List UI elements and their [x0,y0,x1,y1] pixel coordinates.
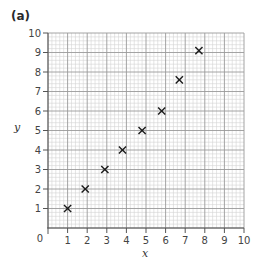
x-tick-label: 10 [238,235,251,246]
y-tick-label: 5 [35,125,41,136]
y-tick-label: 7 [35,86,41,97]
x-tick-label: 4 [123,235,129,246]
x-tick-label: 8 [202,235,208,246]
y-axis-label: y [13,121,21,134]
y-tick-label: 2 [35,184,41,195]
x-tick-label: 5 [143,235,149,246]
x-tick-label: 2 [84,235,90,246]
y-tick-label: 4 [35,145,41,156]
y-tick-label: 3 [35,164,41,175]
y-tick-label: 1 [35,203,41,214]
scatter-chart: 12345678910012345678910 xy [0,0,266,267]
x-axis-label: x [142,247,149,260]
y-tick-label: 8 [35,67,41,78]
tick-marks [43,33,244,233]
x-tick-label: 7 [182,235,188,246]
x-marker-icon [195,47,202,54]
y-tick-label: 6 [35,106,41,117]
y-tick-label: 9 [35,47,41,58]
major-grid [48,33,244,228]
x-tick-label: 3 [104,235,110,246]
x-tick-label: 1 [64,235,70,246]
x-tick-label: 9 [221,235,227,246]
y-tick-label: 10 [28,28,41,39]
x-tick-label: 6 [162,235,168,246]
origin-label: 0 [37,233,43,244]
